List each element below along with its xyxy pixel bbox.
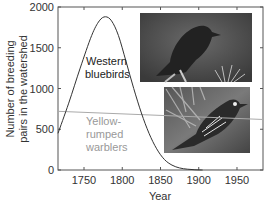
warbler-label-1: Yellow- [86,115,121,127]
y-axis-label-2: pairs in the watershed [17,35,29,143]
y-tick-label: 500 [36,123,54,135]
x-tick-label: 1750 [72,174,96,186]
y-tick-label: 1500 [30,42,54,54]
y-tick-label: 2000 [30,1,54,13]
bluebird-label-1: Western [86,55,127,67]
warbler-label-3: warblers [85,141,128,153]
y-tick-label: 1000 [30,83,54,95]
y-axis-label-1: Number of breeding [4,40,16,137]
bluebird-label-2: bluebirds [85,68,130,80]
x-tick-label: 1950 [225,174,249,186]
x-tick-label: 1900 [187,174,211,186]
yellow-rumped-warbler-photo [164,87,250,153]
y-tick-label: 0 [48,164,54,176]
warbler-label-2: rumped [86,128,123,140]
x-tick-label: 1800 [110,174,134,186]
western-bluebird-photo [140,13,252,82]
chart: 0500100015002000 17501800185019001950 We… [0,0,267,204]
x-axis-label: Year [149,190,172,202]
x-tick-label: 1850 [148,174,172,186]
